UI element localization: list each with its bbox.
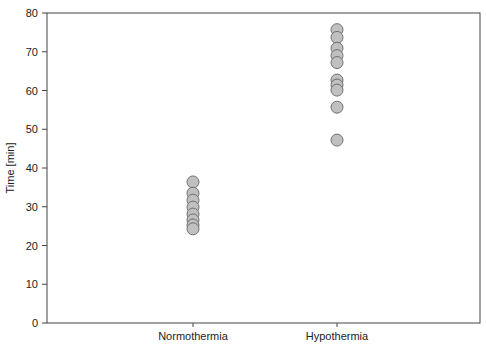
data-point [331,31,343,43]
y-tick-label: 80 [26,7,38,19]
data-points [187,24,343,235]
data-point [331,57,343,69]
x-tick-label: Normothermia [158,330,229,342]
y-tick-label: 30 [26,201,38,213]
data-point [187,223,199,235]
data-point [187,176,199,188]
data-point [331,84,343,96]
scatter-chart: 01020304050607080Time [min]NormothermiaH… [0,0,486,348]
y-tick-label: 0 [32,317,38,329]
plot-frame [47,13,480,323]
y-tick-label: 10 [26,278,38,290]
y-tick-label: 60 [26,85,38,97]
axes: 01020304050607080Time [min]NormothermiaH… [4,7,480,342]
y-tick-label: 40 [26,162,38,174]
data-point [331,101,343,113]
data-point [331,134,343,146]
y-tick-label: 50 [26,123,38,135]
x-tick-label: Hypothermia [306,330,369,342]
y-tick-label: 20 [26,240,38,252]
y-tick-label: 70 [26,46,38,58]
y-axis-title: Time [min] [4,143,16,194]
